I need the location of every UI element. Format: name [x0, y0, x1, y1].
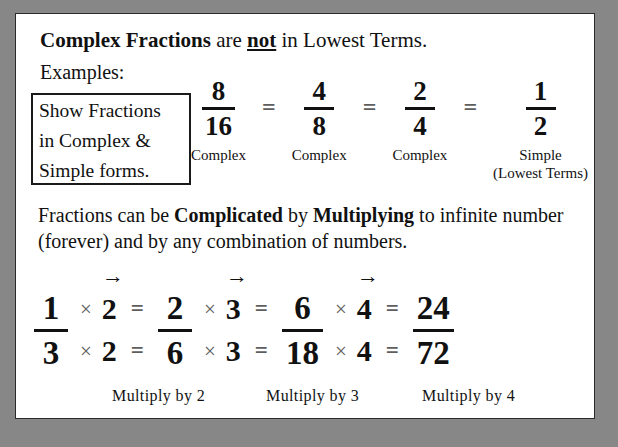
paragraph-part-3: by [283, 204, 313, 226]
equals-sign: = [243, 288, 278, 330]
equivalence-item: 1 2 Simple (Lowest Terms) [493, 76, 588, 182]
equals-sign: = [119, 288, 154, 330]
fraction-6-18: 6 18 [282, 266, 323, 373]
factor: 2 [100, 288, 119, 330]
step-rows: × 2 = × 2 = [72, 288, 154, 372]
caption-multiply-by-4: Multiply by 4 [422, 386, 515, 406]
equals-sign: = [119, 330, 154, 372]
denominator: 6 [163, 333, 188, 373]
fraction-bar [413, 329, 454, 332]
fraction-caption: Simple [519, 146, 562, 164]
fraction-1-3: 1 3 [34, 266, 68, 373]
numerator: 2 [163, 288, 188, 328]
denominator: 16 [202, 111, 235, 141]
fraction-2-4: 2 4 [405, 76, 435, 141]
numerator: 1 [39, 288, 64, 328]
multiply-captions: Multiply by 2 Multiply by 3 Multiply by … [34, 386, 579, 410]
times-icon: × [72, 330, 100, 372]
equals-sign: = [374, 330, 409, 372]
note-line-3: Simple forms. [39, 156, 189, 186]
note-box: Show Fractions in Complex & Simple forms… [31, 93, 191, 185]
paragraph-multiplying: Multiplying [313, 204, 414, 226]
factor: 4 [355, 330, 374, 372]
factor: 3 [224, 330, 243, 372]
caption-multiply-by-2: Multiply by 2 [112, 386, 205, 406]
denominator-operation: × 4 = [327, 330, 409, 372]
note-line-2: in Complex & [39, 126, 189, 156]
times-icon: × [196, 288, 224, 330]
fraction-8-16: 8 16 [202, 76, 235, 141]
denominator-operation: × 3 = [196, 330, 278, 372]
fraction-bar [158, 329, 192, 332]
fraction-bar [405, 107, 435, 110]
multiply-step-4: → × 4 = × 4 = [323, 266, 413, 372]
right-arrow-icon: → [102, 266, 124, 288]
page-title: Complex Fractions are not in Lowest Term… [40, 28, 427, 52]
numerator: 6 [290, 288, 315, 328]
equals-sign: = [246, 76, 292, 121]
numerator-operation: × 3 = [196, 288, 278, 330]
title-complex-fractions: Complex Fractions [40, 28, 211, 52]
times-icon: × [196, 330, 224, 372]
denominator: 18 [282, 333, 323, 373]
numerator: 8 [209, 76, 229, 106]
multiply-step-2: → × 2 = × 2 = [68, 266, 158, 372]
numerator: 2 [410, 76, 430, 106]
fraction-bar [304, 107, 334, 110]
factor: 3 [224, 288, 243, 330]
equals-sign: = [374, 288, 409, 330]
caption-multiply-by-3: Multiply by 3 [266, 386, 359, 406]
step-rows: × 4 = × 4 = [327, 288, 409, 372]
factor: 4 [355, 288, 374, 330]
denominator: 2 [531, 111, 551, 141]
fraction-caption: Complex [191, 146, 246, 164]
times-icon: × [327, 330, 355, 372]
denominator: 72 [413, 333, 454, 373]
right-arrow-icon: → [226, 266, 248, 288]
title-not-emphasis: not [247, 28, 276, 52]
numerator-operation: × 4 = [327, 288, 409, 330]
equals-sign: = [243, 330, 278, 372]
fraction-2-6: 2 6 [158, 266, 192, 373]
equivalence-item: 2 4 Complex [392, 76, 447, 164]
step-rows: × 3 = × 3 = [196, 288, 278, 372]
fraction-bar [34, 329, 68, 332]
numerator-operation: × 2 = [72, 288, 154, 330]
examples-label: Examples: [40, 61, 124, 84]
numerator: 4 [309, 76, 329, 106]
denominator: 4 [410, 111, 430, 141]
fraction-24-72: 24 72 [413, 266, 454, 373]
denominator: 3 [39, 333, 64, 373]
fraction-bar [526, 107, 556, 110]
equals-sign: = [347, 76, 393, 121]
equals-sign: = [447, 76, 493, 121]
factor: 2 [100, 330, 119, 372]
fraction-4-8: 4 8 [304, 76, 334, 141]
times-icon: × [72, 288, 100, 330]
equivalence-item: 4 8 Complex [292, 76, 347, 164]
fraction-subcaption: (Lowest Terms) [493, 164, 588, 182]
paragraph-complicated: Complicated [174, 204, 283, 226]
denominator: 8 [309, 111, 329, 141]
fraction-bar [282, 329, 323, 332]
note-line-1: Show Fractions [39, 96, 189, 126]
equivalence-item: 8 16 Complex [191, 76, 246, 164]
multiplication-chain: 1 3 → × 2 = × 2 = [34, 266, 454, 373]
equivalence-chain: 8 16 Complex = 4 8 Complex = 2 [191, 76, 588, 182]
times-icon: × [327, 288, 355, 330]
paragraph-part-1: Fractions can be [38, 204, 174, 226]
explanation-paragraph: Fractions can be Complicated by Multiply… [38, 202, 583, 254]
fraction-1-2: 1 2 [526, 76, 556, 141]
title-are: are [211, 28, 247, 52]
numerator: 24 [413, 288, 454, 328]
multiply-step-3: → × 3 = × 3 = [192, 266, 282, 372]
fraction-bar [202, 107, 235, 110]
right-arrow-icon: → [357, 266, 379, 288]
slide-page: Complex Fractions are not in Lowest Term… [15, 13, 595, 419]
numerator: 1 [531, 76, 551, 106]
title-lowest-terms: in Lowest Terms. [276, 28, 427, 52]
fraction-caption: Complex [392, 146, 447, 164]
slide-frame: Complex Fractions are not in Lowest Term… [0, 0, 618, 447]
fraction-caption: Complex [292, 146, 347, 164]
denominator-operation: × 2 = [72, 330, 154, 372]
